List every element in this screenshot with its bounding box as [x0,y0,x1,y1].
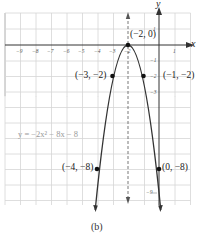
arrow-left-end [93,205,98,212]
grid [5,13,191,97]
x-tick-m9: −9 [16,49,22,55]
x-tick-m5: −5 [78,49,84,55]
y-tick-m3: −3 [150,90,156,96]
arrow-right-end [158,205,163,212]
label-point-0-m8: (0, −8) [162,163,188,173]
label-point-m4-m8: (−4, −8) [62,163,93,173]
label-point-m3-m2: (−3, −2) [75,71,106,81]
y-axis-label: y [156,0,160,9]
equation-label: y = −2x² − 8x − 8 [18,130,78,139]
x-tick-1: 1 [173,49,176,55]
y-tick-m9: −9 [146,190,152,196]
x-tick-m4: −4 [94,49,100,55]
axis-of-symmetry [126,12,130,204]
figure-caption: (b) [91,222,103,232]
label-point-m1-m2: (−1, −2) [163,71,194,81]
y-tick-m1: −1 [150,58,156,64]
x-tick-m6: −6 [63,49,69,55]
x-tick-m8: −8 [32,49,38,55]
x-tick-m3: −3 [109,49,115,55]
x-tick-m2: −2 [124,49,130,55]
x-axis-label: x [191,39,195,49]
y-tick-m2: −2 [150,74,156,80]
label-vertex: (−2, 0) [130,30,156,40]
x-tick-m7: −7 [47,49,53,55]
graph-canvas [0,0,198,237]
